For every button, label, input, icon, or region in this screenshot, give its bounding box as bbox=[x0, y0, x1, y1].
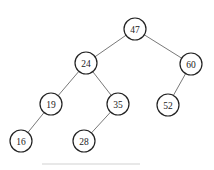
edge-35-28 bbox=[91, 112, 110, 133]
binary-tree-diagram: 4724601935521628 bbox=[0, 0, 214, 170]
edge-60-52 bbox=[173, 74, 185, 96]
node-label: 35 bbox=[113, 100, 123, 110]
tree-edges bbox=[28, 35, 186, 133]
edge-47-60 bbox=[144, 35, 181, 58]
edge-24-35 bbox=[93, 72, 111, 96]
figure-caption-illegible bbox=[42, 163, 140, 165]
node-label: 52 bbox=[163, 101, 173, 111]
tree-node-28: 28 bbox=[73, 130, 95, 152]
tree-node-19: 19 bbox=[40, 93, 62, 115]
node-label: 47 bbox=[130, 25, 140, 35]
tree-nodes: 4724601935521628 bbox=[10, 18, 202, 152]
tree-node-52: 52 bbox=[157, 94, 179, 116]
node-label: 19 bbox=[46, 100, 56, 110]
edge-47-24 bbox=[95, 35, 126, 56]
tree-node-24: 24 bbox=[75, 52, 97, 74]
tree-node-47: 47 bbox=[124, 18, 146, 40]
node-label: 28 bbox=[79, 137, 89, 147]
edge-24-19 bbox=[58, 71, 79, 95]
node-label: 60 bbox=[186, 60, 196, 70]
edge-19-16 bbox=[28, 113, 44, 133]
tree-node-35: 35 bbox=[107, 93, 129, 115]
node-label: 16 bbox=[16, 137, 26, 147]
tree-node-16: 16 bbox=[10, 130, 32, 152]
node-label: 24 bbox=[81, 59, 91, 69]
tree-node-60: 60 bbox=[180, 53, 202, 75]
